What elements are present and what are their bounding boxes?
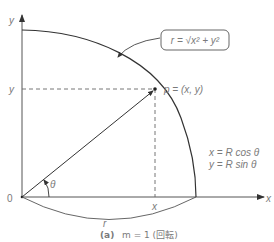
x-tick-label: x	[151, 201, 158, 212]
equation-x: x = R cos θ	[208, 147, 260, 158]
origin-label: 0	[7, 193, 13, 204]
callout-text: r = √x² + y²	[171, 35, 220, 46]
x-axis-label: x	[265, 193, 272, 204]
point-p	[153, 87, 157, 91]
quarter-circle-arc	[22, 30, 196, 197]
polar-coordinate-diagram: r = √x² + y² y x 0 y x p = (x, y) θ r x …	[0, 0, 274, 242]
caption-prefix: (a)	[100, 230, 114, 240]
angle-arc	[44, 180, 49, 197]
caption-text: m = 1 (回転)	[122, 230, 178, 240]
radius-vector	[22, 91, 153, 197]
callout-leader	[118, 38, 160, 57]
equation-y: y = R sin θ	[208, 159, 257, 170]
angle-label: θ	[50, 179, 56, 190]
point-label: p = (x, y)	[163, 84, 203, 95]
y-axis-label: y	[8, 15, 15, 26]
radius-brace-arc	[22, 197, 196, 220]
y-tick-label: y	[8, 84, 15, 95]
